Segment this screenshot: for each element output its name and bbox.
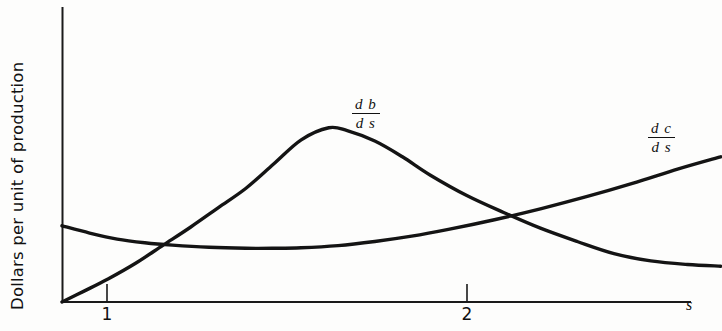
economics-marginal-curves-figure: Dollars per unit of production 1 2 s d b… xyxy=(0,0,722,331)
curve-db-ds-visible xyxy=(62,127,721,302)
curve-dc-ds xyxy=(62,157,721,249)
plot-canvas xyxy=(0,0,722,331)
